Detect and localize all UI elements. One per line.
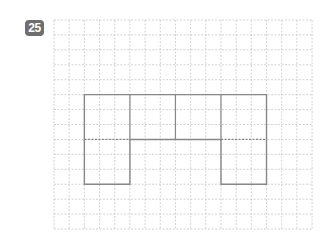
grid-diagram — [0, 0, 330, 239]
